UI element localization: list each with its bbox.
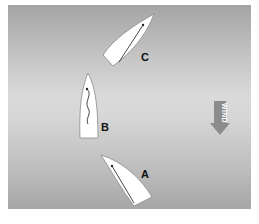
boat-b-hull [80, 73, 98, 138]
boat-b: B [80, 73, 109, 138]
wind-arrow-icon: WIND [210, 101, 230, 135]
boat-c-label: C [141, 51, 149, 63]
boat-a: A [101, 155, 152, 206]
boat-b-label: B [101, 121, 109, 133]
sailing-diagram: C B A WIND [0, 0, 259, 224]
boat-c: C [103, 14, 154, 66]
boat-a-label: A [141, 168, 149, 180]
wind-label: WIND [221, 103, 228, 123]
boat-a-hull [101, 155, 152, 206]
